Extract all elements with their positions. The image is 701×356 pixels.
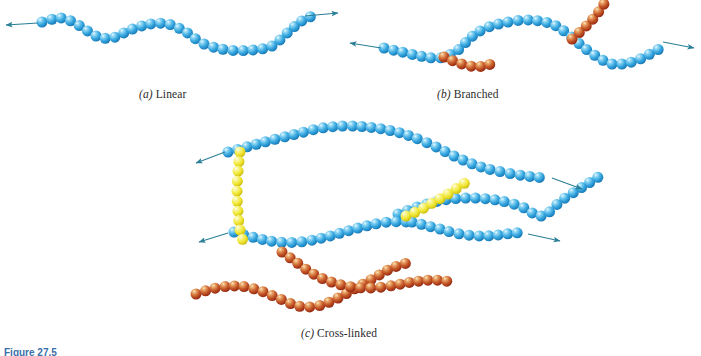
mer-sphere: [235, 147, 246, 158]
mer-sphere: [257, 43, 268, 54]
mer-sphere: [441, 276, 452, 287]
chain-branched-main: [379, 14, 664, 69]
chain-branched-branch-1: [439, 52, 496, 72]
mer-sphere: [232, 206, 243, 217]
mer-sphere: [412, 133, 423, 144]
mer-sphere: [37, 17, 48, 28]
mer-sphere: [391, 216, 402, 227]
caption-panel-a: (a)Linear: [139, 88, 186, 100]
chain-crosslinked-blue-upper: [223, 121, 545, 183]
mer-sphere: [199, 39, 210, 50]
mer-sphere: [483, 230, 494, 241]
mer-sphere: [502, 228, 513, 239]
caption-panel-c: (c)Cross-linked: [301, 327, 377, 339]
mer-sphere: [534, 172, 545, 183]
mer-sphere: [228, 45, 239, 56]
mer-sphere: [371, 218, 382, 229]
mer-sphere: [233, 215, 244, 226]
mer-sphere: [400, 258, 411, 269]
mer-sphere: [233, 166, 244, 177]
mer-sphere: [489, 194, 500, 205]
mer-sphere: [366, 122, 377, 133]
mer-sphere: [474, 230, 485, 241]
caption-text-b: Branched: [451, 88, 499, 100]
mer-sphere: [523, 14, 534, 25]
mer-sphere: [238, 281, 249, 292]
mer-sphere: [100, 33, 111, 44]
mer-sphere: [484, 59, 495, 70]
mer-sphere: [316, 233, 327, 244]
mer-sphere: [388, 45, 399, 56]
mer-sphere: [318, 122, 329, 133]
mer-sphere: [385, 280, 396, 291]
mer-sphere: [217, 44, 228, 55]
mer-sphere: [459, 178, 470, 189]
polymer-structure-figure: (a)Linear (b)Branched (c)Cross-linked Fi…: [0, 0, 701, 356]
mer-sphere: [208, 42, 219, 53]
mer-sphere: [456, 58, 467, 69]
mer-sphere: [46, 14, 57, 25]
mer-sphere: [407, 49, 418, 60]
mer-sphere: [404, 277, 415, 288]
caption-panel-b: (b)Branched: [437, 88, 499, 100]
mer-sphere: [279, 131, 290, 142]
mer-sphere: [56, 12, 67, 23]
mer-sphere: [288, 129, 299, 140]
mer-sphere: [191, 289, 202, 300]
mer-sphere: [260, 136, 271, 147]
mer-sphere: [235, 225, 246, 236]
mer-sphere: [200, 285, 211, 296]
chain-crosslinked-blue-lower-left: [229, 216, 412, 248]
mer-sphere: [454, 228, 465, 239]
caption-text-a: Linear: [153, 88, 187, 100]
mer-sphere: [607, 59, 618, 70]
mer-sphere: [232, 196, 243, 207]
mer-sphere: [425, 221, 436, 232]
mer-sphere: [304, 301, 315, 312]
mer-sphere: [296, 236, 307, 247]
mer-sphere: [475, 61, 486, 72]
caption-label-a: (a): [139, 88, 153, 100]
mer-sphere: [480, 193, 491, 204]
arrow-b-right: [663, 42, 694, 48]
mer-sphere: [413, 276, 424, 287]
chain-branched-branch-2: [567, 0, 610, 44]
mer-sphere: [248, 232, 259, 243]
mer-sphere: [626, 57, 637, 68]
mer-sphere: [466, 61, 477, 72]
mer-sphere: [136, 20, 147, 31]
mer-sphere: [266, 236, 277, 247]
mer-sphere: [269, 134, 280, 145]
mer-sphere: [503, 17, 514, 28]
mer-sphere: [395, 279, 406, 290]
mer-sphere: [381, 217, 392, 228]
mer-sphere: [145, 18, 156, 29]
mer-sphere: [375, 123, 386, 134]
mer-sphere: [352, 223, 363, 234]
mer-sphere: [233, 156, 244, 167]
mer-sphere: [505, 168, 516, 179]
caption-text-c: Cross-linked: [314, 327, 377, 339]
mer-sphere: [257, 234, 268, 245]
mer-sphere: [532, 15, 543, 26]
mer-sphere: [493, 19, 504, 30]
mer-sphere: [509, 199, 520, 210]
mer-sphere: [592, 172, 603, 183]
mer-sphere: [326, 277, 337, 288]
mer-sphere: [616, 59, 627, 70]
mer-sphere: [305, 11, 316, 22]
mer-sphere: [276, 237, 287, 248]
mer-sphere: [385, 125, 396, 136]
chain-crosslinked-blue-middle: [393, 172, 604, 222]
mer-sphere: [335, 279, 346, 290]
mer-sphere: [422, 275, 433, 286]
mer-sphere: [524, 171, 535, 182]
figure-number-label: Figure 27.5: [4, 347, 57, 356]
mer-sphere: [513, 15, 524, 26]
mer-sphere: [337, 121, 348, 132]
mer-sphere: [425, 52, 436, 63]
mer-sphere: [91, 31, 102, 42]
mer-sphere: [155, 18, 166, 29]
figure-canvas: [0, 0, 701, 356]
mer-sphere: [653, 44, 664, 55]
